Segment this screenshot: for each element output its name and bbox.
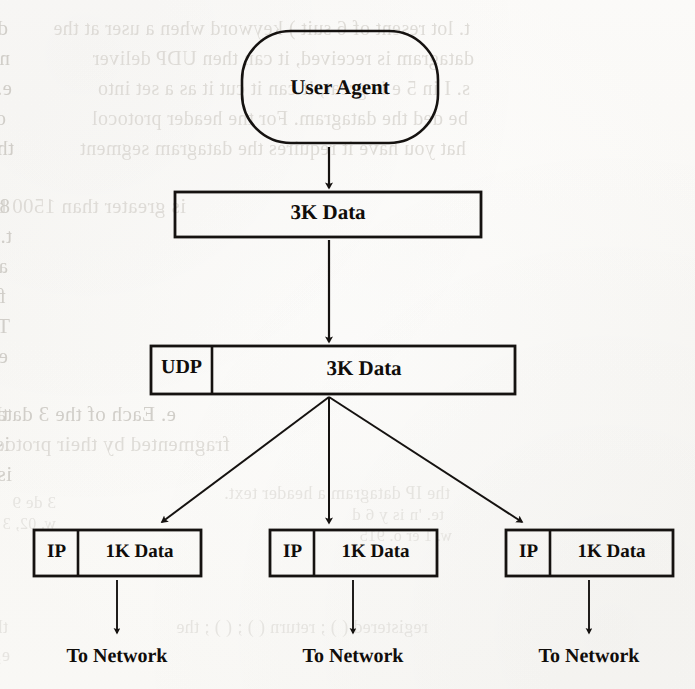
label-udp-payload: 3K Data xyxy=(213,356,515,381)
label-ip-header-2: IP xyxy=(271,541,314,563)
label-user-agent: User Agent xyxy=(247,75,433,100)
label-ip-payload-2: 1K Data xyxy=(315,541,436,563)
label-ip-header-3: IP xyxy=(507,541,550,563)
edge-udp-to-ip-packet-1 xyxy=(162,397,329,522)
label-ip-payload-1: 1K Data xyxy=(79,541,200,563)
edge-udp-to-ip-packet-3 xyxy=(329,397,522,522)
label-to-network-3: To Network xyxy=(504,645,674,668)
scanned-page: d for several of the UDP datagram when a… xyxy=(0,0,695,689)
label-udp-header: UDP xyxy=(151,356,212,379)
label-app-data: 3K Data xyxy=(175,200,481,225)
label-ip-payload-3: 1K Data xyxy=(551,541,672,563)
label-to-network-1: To Network xyxy=(32,645,202,668)
label-ip-header-1: IP xyxy=(35,541,78,563)
udp-fragmentation-diagram xyxy=(0,0,695,689)
label-to-network-2: To Network xyxy=(268,645,438,668)
